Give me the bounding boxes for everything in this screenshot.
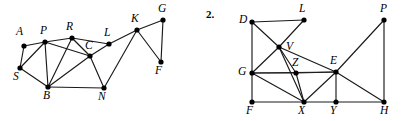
- graph-edge-G-X: [252, 73, 304, 102]
- graph-edge-C-N: [90, 56, 104, 88]
- vertex-label-K: K: [131, 13, 139, 25]
- graph-edge-D-V: [252, 22, 279, 47]
- vertex-label-B: B: [43, 90, 50, 102]
- figure-2-graph: DLVZGEPFXYH 2.: [200, 0, 401, 121]
- graph-vertex-Z: [293, 70, 298, 75]
- vertex-label-G: G: [158, 3, 166, 15]
- graph-edge-K-G: [137, 20, 163, 30]
- vertex-label-L: L: [299, 3, 305, 15]
- graph-edge-R-B: [48, 38, 72, 87]
- vertex-label-S: S: [13, 71, 19, 83]
- graph-edge-D-L: [252, 20, 304, 22]
- vertex-label-C: C: [85, 40, 93, 52]
- graph-edge-E-X: [304, 72, 336, 102]
- vertex-label-A: A: [16, 26, 23, 38]
- graph-edge-V-G: [252, 47, 279, 73]
- vertex-label-H: H: [380, 105, 388, 117]
- vertex-label-X: X: [298, 105, 305, 117]
- vertex-label-P: P: [380, 3, 387, 15]
- graph-vertex-D: [249, 19, 254, 24]
- graph-vertex-P: [381, 17, 386, 22]
- vertex-label-N: N: [98, 91, 106, 103]
- graph-edge-B-N: [48, 87, 104, 88]
- graph-edge-G-F: [161, 20, 163, 62]
- graph-vertex-L: [106, 41, 111, 46]
- graph-vertex-L: [301, 17, 306, 22]
- graph-vertex-A: [21, 43, 26, 48]
- vertex-label-F: F: [246, 105, 253, 117]
- graph-edge-E-H: [336, 72, 384, 102]
- vertex-label-V: V: [286, 41, 293, 53]
- graph-vertex-G: [160, 17, 165, 22]
- graph-edge-P-B: [45, 42, 48, 87]
- graph-vertex-G: [249, 70, 254, 75]
- graph-vertex-P: [42, 39, 47, 44]
- graph-vertex-R: [69, 35, 74, 40]
- graph-edge-P-R: [45, 38, 72, 42]
- graph-figures-page: APSBRCLNKGF DLVZGEPFXYH 2.: [0, 0, 401, 121]
- vertex-label-Y: Y: [330, 105, 336, 117]
- vertex-label-Z: Z: [292, 57, 298, 69]
- graph-edge-K-F: [137, 30, 161, 62]
- vertex-label-E: E: [330, 55, 337, 67]
- graph-edge-S-B: [20, 68, 48, 87]
- graph-edge-B-C: [48, 56, 90, 87]
- graph-vertex-C: [87, 53, 92, 58]
- vertex-label-L: L: [104, 27, 110, 39]
- graph-vertex-E: [333, 69, 338, 74]
- graph-vertex-V: [276, 44, 281, 49]
- vertex-label-F: F: [155, 65, 162, 77]
- figure-number-label: 2.: [206, 8, 214, 20]
- graph-edge-E-P: [336, 20, 384, 72]
- vertex-label-D: D: [239, 14, 247, 26]
- figure-1-graph: APSBRCLNKGF: [0, 0, 200, 121]
- figure-2-canvas: [200, 0, 401, 121]
- vertex-label-P: P: [40, 25, 47, 37]
- vertex-label-R: R: [66, 21, 73, 33]
- vertex-label-G: G: [238, 66, 246, 78]
- graph-vertex-K: [134, 27, 139, 32]
- figure-1-canvas: [0, 0, 200, 121]
